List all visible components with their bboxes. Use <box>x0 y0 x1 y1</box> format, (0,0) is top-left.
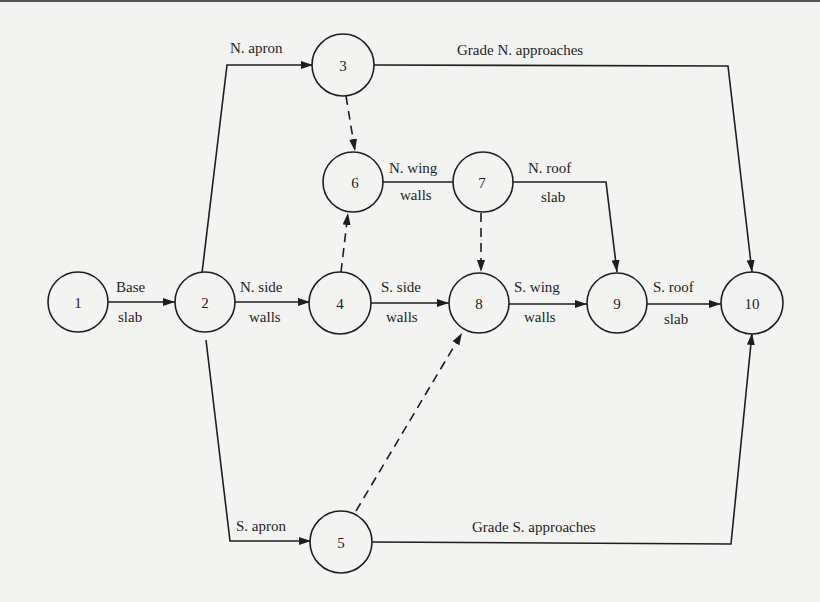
node-label-9: 9 <box>613 296 621 312</box>
label-grade-n: Grade N. approaches <box>457 42 583 58</box>
label-s-apron: S. apron <box>236 518 286 534</box>
label-s-roof-slab: slab <box>664 311 688 327</box>
label-n-wing-walls: walls <box>400 187 432 203</box>
arrow-5-10 <box>371 333 752 544</box>
label-n-roof-slab: slab <box>541 189 565 205</box>
label-n-side: N. side <box>240 279 283 295</box>
node-label-5: 5 <box>337 535 345 551</box>
label-s-roof: S. roof <box>653 279 694 295</box>
dummy-3-6 <box>346 96 355 151</box>
label-s-side-walls: walls <box>386 309 418 325</box>
dummy-4-6 <box>341 213 348 272</box>
node-label-1: 1 <box>74 295 82 311</box>
node-label-6: 6 <box>351 175 359 191</box>
arrow-2-5 <box>206 340 311 541</box>
node-label-4: 4 <box>336 296 344 312</box>
label-n-roof: N. roof <box>528 160 571 176</box>
node-label-2: 2 <box>201 295 209 311</box>
label-base: Base <box>116 279 146 295</box>
label-s-wing: S. wing <box>514 279 560 295</box>
node-label-10: 10 <box>745 296 760 312</box>
label-n-apron: N. apron <box>230 40 283 56</box>
dummy-5-8 <box>356 333 462 511</box>
label-n-side-walls: walls <box>249 309 281 325</box>
label-s-side: S. side <box>381 279 421 295</box>
label-base-slab: slab <box>118 309 142 325</box>
diagram-canvas: 1 2 3 4 5 6 7 8 9 10 Base slab N. apron … <box>0 0 820 602</box>
label-s-wing-walls: walls <box>524 309 556 325</box>
node-label-7: 7 <box>478 175 486 191</box>
label-n-wing: N. wing <box>389 160 438 176</box>
network-diagram: 1 2 3 4 5 6 7 8 9 10 Base slab N. apron … <box>0 0 820 602</box>
node-label-8: 8 <box>475 296 483 312</box>
label-grade-s: Grade S. approaches <box>472 519 596 535</box>
node-label-3: 3 <box>339 58 347 74</box>
arrow-2-3 <box>202 65 313 273</box>
